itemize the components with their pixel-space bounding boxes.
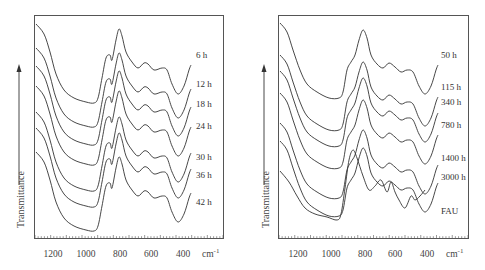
series-label-18h: 18 h (196, 99, 212, 109)
chart-panel-left: Transmittance 1200 1000 800 600 400 cm-1… (0, 0, 245, 270)
chart-right-svg: Transmittance 1200 1000 800 600 400 cm-1… (245, 0, 485, 270)
series-label-340h: 340 h (441, 97, 462, 107)
spectrum-curve (280, 150, 425, 220)
x-axis-tick-labels: 1200 1000 800 600 400 cm-1 (289, 247, 464, 259)
arrowhead-icon (262, 64, 267, 72)
spectrum-curve (36, 24, 191, 103)
tick-label-600: 600 (144, 249, 159, 259)
chart-panel-right: Transmittance 1200 1000 800 600 400 cm-1… (245, 0, 485, 270)
series-label-780h: 780 h (441, 120, 462, 130)
arrowhead-icon (17, 64, 22, 72)
series-label-24h: 24 h (196, 121, 212, 131)
tick-label-800: 800 (358, 249, 373, 259)
spectrum-curve (36, 152, 191, 231)
x-axis-ticks (279, 235, 468, 238)
spectrum-curve (280, 123, 438, 199)
series-label-30h: 30 h (196, 152, 212, 162)
spectrum-curve (280, 55, 438, 131)
tick-label-1200: 1200 (44, 249, 63, 259)
series-label-1400h: 1400 h (441, 153, 466, 163)
plot-frame (279, 16, 469, 239)
x-axis-unit: cm-1 (446, 247, 464, 259)
spectra-curves (36, 24, 191, 231)
x-axis-tick-labels: 1200 1000 800 600 400 cm-1 (44, 247, 220, 259)
y-axis-label-group: Transmittance (260, 64, 271, 228)
series-labels: 50 h 115 h 340 h 780 h 1400 h 3000 h FAU (441, 50, 466, 216)
series-label-36h: 36 h (196, 170, 212, 180)
tick-label-600: 600 (388, 249, 403, 259)
chart-left-svg: Transmittance 1200 1000 800 600 400 cm-1… (0, 0, 245, 270)
series-label-3000h: 3000 h (441, 172, 466, 182)
series-label-6h: 6 h (196, 50, 208, 60)
tick-label-800: 800 (113, 249, 128, 259)
tick-label-1000: 1000 (77, 249, 96, 259)
x-axis-unit: cm-1 (202, 247, 220, 259)
series-label-42h: 42 h (196, 197, 212, 207)
tick-label-1200: 1200 (289, 249, 308, 259)
tick-label-400: 400 (420, 249, 435, 259)
series-label-50h: 50 h (441, 50, 457, 60)
series-labels: 6 h 12 h 18 h 24 h 30 h 36 h 42 h (196, 50, 212, 207)
series-label-12h: 12 h (196, 79, 212, 89)
series-label-fau: FAU (441, 206, 459, 216)
spectrum-curve (36, 86, 191, 165)
y-axis-label-group: Transmittance (15, 64, 26, 228)
tick-label-1000: 1000 (322, 249, 341, 259)
x-axis-ticks (35, 235, 223, 238)
y-axis-label: Transmittance (15, 171, 26, 228)
series-label-115h: 115 h (441, 82, 461, 92)
spectra-curves (280, 23, 438, 220)
y-axis-label: Transmittance (260, 171, 271, 228)
tick-label-400: 400 (176, 249, 191, 259)
